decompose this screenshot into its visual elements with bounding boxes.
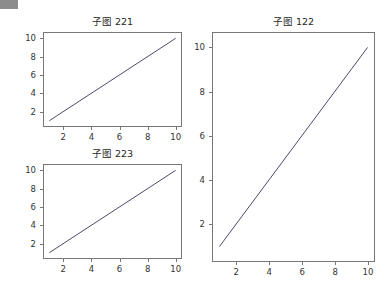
subplot-223: 子图 223 2 4 6 8 10 2 4 6 8 10: [43, 164, 182, 259]
subplot-122-data-line: [219, 47, 367, 246]
subplot-223-xtick: [148, 259, 149, 262]
subplot-122-xtick: [368, 262, 369, 265]
subplot-223-title: 子图 223: [43, 148, 182, 160]
subplot-221-ytick: [40, 38, 43, 39]
subplot-122-xtick: [236, 262, 237, 265]
subplot-221-line-plot: [43, 32, 182, 127]
subplot-221-xticklabel: 8: [145, 132, 150, 142]
subplot-221-xtick: [176, 127, 177, 130]
subplot-122: 子图 122 2 4 6 8 10 2 4 6 8 10: [212, 32, 375, 262]
subplot-223-ytick: [40, 189, 43, 190]
subplot-223-yticklabel: 4: [31, 220, 36, 230]
subplot-221-xticklabel: 2: [61, 132, 66, 142]
subplot-122-xticklabel: 2: [234, 267, 239, 277]
subplot-223-yticklabel: 8: [31, 184, 36, 194]
subplot-223-xticklabel: 8: [145, 264, 150, 274]
subplot-122-yticklabel: 10: [194, 42, 205, 52]
subplot-122-xticklabel: 8: [332, 267, 337, 277]
subplot-122-line-plot: [212, 32, 375, 262]
subplot-221-yticklabel: 2: [31, 107, 36, 117]
subplot-122-yticklabel: 6: [200, 131, 205, 141]
subplot-223-data-line: [49, 170, 175, 252]
subplot-122-ytick: [209, 47, 212, 48]
subplot-122-xticklabel: 4: [266, 267, 271, 277]
subplot-122-yticklabel: 4: [200, 175, 205, 185]
subplot-122-title: 子图 122: [212, 16, 375, 28]
subplot-223-xtick: [91, 259, 92, 262]
subplot-122-ytick: [209, 224, 212, 225]
subplot-223-xtick: [63, 259, 64, 262]
screenshot-corner-artifact: [0, 0, 18, 9]
subplot-223-ytick: [40, 244, 43, 245]
subplot-122-xtick: [302, 262, 303, 265]
subplot-223-yticklabel: 2: [31, 239, 36, 249]
subplot-221-yticklabel: 6: [31, 70, 36, 80]
subplot-221: 子图 221 2 4 6 8 10 2 4 6 8 10: [43, 32, 182, 127]
subplot-221-xtick: [120, 127, 121, 130]
subplot-221-ytick: [40, 57, 43, 58]
subplot-221-ytick: [40, 112, 43, 113]
subplot-221-ytick: [40, 75, 43, 76]
subplot-223-yticklabel: 10: [25, 165, 36, 175]
subplot-122-xticklabel: 10: [363, 267, 374, 277]
matplotlib-figure-canvas: 子图 221 2 4 6 8 10 2 4 6 8 10 子图 223: [0, 0, 388, 291]
subplot-122-xtick: [335, 262, 336, 265]
subplot-122-yticklabel: 8: [200, 87, 205, 97]
subplot-221-xticklabel: 10: [170, 132, 181, 142]
subplot-122-ytick: [209, 180, 212, 181]
subplot-223-xticklabel: 4: [89, 264, 94, 274]
subplot-221-yticklabel: 10: [25, 33, 36, 43]
subplot-221-xtick: [91, 127, 92, 130]
subplot-122-xticklabel: 6: [299, 267, 304, 277]
subplot-223-ytick: [40, 170, 43, 171]
subplot-223-xtick: [176, 259, 177, 262]
subplot-221-title: 子图 221: [43, 16, 182, 28]
subplot-122-ytick: [209, 92, 212, 93]
subplot-223-ytick: [40, 207, 43, 208]
subplot-223-line-plot: [43, 164, 182, 259]
subplot-223-xticklabel: 10: [170, 264, 181, 274]
subplot-223-xtick: [120, 259, 121, 262]
subplot-122-xtick: [269, 262, 270, 265]
subplot-223-yticklabel: 6: [31, 202, 36, 212]
subplot-221-xticklabel: 6: [117, 132, 122, 142]
subplot-122-ytick: [209, 136, 212, 137]
subplot-221-xtick: [148, 127, 149, 130]
subplot-221-data-line: [49, 38, 175, 120]
subplot-223-xticklabel: 2: [61, 264, 66, 274]
subplot-221-xticklabel: 4: [89, 132, 94, 142]
subplot-223-xticklabel: 6: [117, 264, 122, 274]
subplot-221-ytick: [40, 93, 43, 94]
subplot-221-xtick: [63, 127, 64, 130]
subplot-223-ytick: [40, 225, 43, 226]
subplot-122-yticklabel: 2: [200, 219, 205, 229]
subplot-221-yticklabel: 4: [31, 88, 36, 98]
subplot-221-yticklabel: 8: [31, 52, 36, 62]
